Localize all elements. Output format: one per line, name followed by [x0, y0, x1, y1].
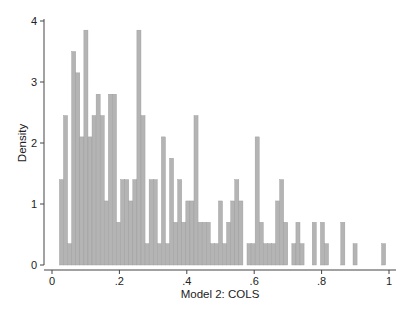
histogram-bar [247, 244, 251, 265]
histogram-bar [112, 94, 116, 265]
histogram-bar [259, 222, 263, 265]
x-tick-label: .2 [115, 275, 124, 287]
histogram-bar [296, 222, 300, 265]
histogram-bar [280, 180, 284, 265]
histogram-bar [72, 52, 76, 266]
histogram-bar [125, 180, 129, 265]
histogram-bar [190, 201, 194, 265]
histogram-bar [206, 222, 210, 265]
histogram-bar [63, 116, 67, 265]
histogram-bar [353, 244, 357, 265]
histogram-bar [129, 201, 133, 265]
histogram-bar [223, 244, 227, 265]
histogram-bar [153, 180, 157, 265]
histogram-bar [267, 244, 271, 265]
histogram-bar [255, 137, 259, 265]
histogram-bar [324, 244, 328, 265]
histogram-bar [210, 244, 214, 265]
histogram-bar [84, 30, 88, 265]
histogram-bar [161, 137, 165, 265]
histogram-bar [104, 201, 108, 265]
histogram-bar [382, 244, 386, 265]
histogram-bar [312, 222, 316, 265]
x-axis-title: Model 2: COLS [181, 288, 260, 300]
histogram-bar [80, 137, 84, 265]
histogram-bar [174, 222, 178, 265]
histogram-bar [170, 158, 174, 265]
histogram-bar [194, 116, 198, 265]
histogram-bar [141, 116, 145, 265]
histogram-bar [133, 180, 137, 265]
y-tick-label: 4 [31, 15, 37, 27]
histogram-bar [251, 244, 255, 265]
x-tick-label: .6 [250, 275, 259, 287]
y-axis: 01234 [31, 15, 44, 271]
histogram-bar [198, 222, 202, 265]
histogram-bar [178, 180, 182, 265]
y-axis-title: Density [16, 124, 28, 163]
histogram-bar [227, 222, 231, 265]
histogram-bar [145, 244, 149, 265]
x-tick-label: .4 [182, 275, 191, 287]
histogram-bar [271, 244, 275, 265]
x-tick-label: 1 [386, 275, 392, 287]
histogram-bar [231, 201, 235, 265]
y-tick-label: 1 [31, 198, 37, 210]
histogram-bar [59, 180, 63, 265]
histogram-bar [68, 244, 72, 265]
histogram-bar [276, 201, 280, 265]
histogram-bar [108, 94, 112, 265]
y-tick-label: 3 [31, 76, 37, 88]
histogram-bar [320, 222, 324, 265]
histogram-bar [76, 73, 80, 265]
histogram-bar [149, 180, 153, 265]
histogram-bar [300, 244, 304, 265]
histogram-bar [137, 30, 141, 265]
x-tick-label: .8 [317, 275, 326, 287]
histogram-bar [341, 222, 345, 265]
histogram-bar [202, 222, 206, 265]
histogram-bar [157, 244, 161, 265]
histogram-bar [292, 244, 296, 265]
histogram-bars [59, 30, 385, 265]
histogram-bar [96, 94, 100, 265]
histogram-bar [239, 201, 243, 265]
histogram-bar [235, 180, 239, 265]
histogram-bar [92, 116, 96, 265]
histogram-bar [100, 116, 104, 265]
histogram-bar [186, 201, 190, 265]
histogram-bar [117, 222, 121, 265]
histogram-bar [218, 201, 222, 265]
x-axis: 0.2.4.6.81 [44, 270, 396, 287]
x-tick-label: 0 [49, 275, 55, 287]
histogram-bar [263, 244, 267, 265]
histogram-bar [88, 137, 92, 265]
histogram-bar [165, 244, 169, 265]
histogram-chart: 01234 0.2.4.6.81 Density Model 2: COLS [0, 0, 416, 312]
histogram-bar [214, 244, 218, 265]
histogram-bar [121, 180, 125, 265]
histogram-bar [182, 222, 186, 265]
histogram-bar [284, 222, 288, 265]
y-tick-label: 0 [31, 259, 37, 271]
y-tick-label: 2 [31, 137, 37, 149]
